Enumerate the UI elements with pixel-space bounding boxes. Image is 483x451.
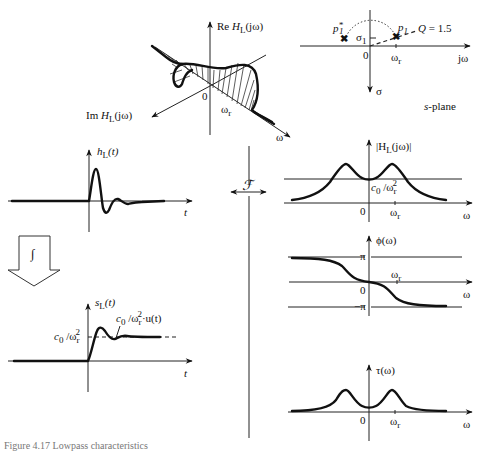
pi-label: π — [360, 250, 366, 262]
q-label: Q = 1.5 — [418, 22, 452, 34]
delay-origin: 0 — [360, 414, 366, 426]
s-plane-origin: 0 — [363, 49, 369, 61]
nyquist-loop — [173, 64, 192, 87]
h-axis-label: hL(t) — [97, 145, 119, 160]
pole-conj-label: p*1 — [332, 20, 344, 36]
integral-block-arrow — [8, 236, 60, 286]
delay-axis-label: τ(ω) — [376, 364, 395, 377]
step-t-label: t — [184, 367, 188, 379]
fourier-symbol: ℱ — [242, 178, 256, 193]
lowpass-characteristics-figure: Re HL(jω) Im HL(jω) 0 ωr ω ✖ ✖ p*1 p1 σ1… — [0, 0, 483, 451]
t-axis-label: t — [184, 206, 188, 218]
jw-axis-label: jω — [457, 52, 468, 64]
neg-pi-label: −π — [354, 300, 366, 312]
asymptote-label: c0 /ωr2·u(t) — [116, 309, 162, 327]
nyquist-3d-plot: Re HL(jω) Im HL(jω) 0 ωr ω — [86, 20, 290, 143]
phase-axis-label: ϕ(ω) — [376, 234, 397, 247]
s-plane-plot: ✖ ✖ p*1 p1 σ1 Q = 1.5 0 ωr jω σ s-plane — [300, 10, 470, 112]
s-axis-label: sL(t) — [95, 296, 116, 311]
magnitude-plot: |HL(jω)| c0 /ωr2 0 ωr ω — [284, 140, 472, 222]
sigma-axis-label: σ — [376, 85, 382, 97]
mag-omega-label: ω — [463, 209, 470, 221]
s-plane-omega-r: ωr — [391, 51, 401, 66]
integral-symbol: ∫ — [30, 246, 36, 262]
nyquist-tail — [254, 112, 274, 124]
phase-omega-r: ωr — [391, 268, 401, 283]
mag-origin: 0 — [360, 205, 366, 217]
integral-arrow: ∫ — [8, 236, 60, 286]
fourier-separator: ℱ — [231, 146, 266, 438]
group-delay-plot: τ(ω) 0 ωr ω — [288, 364, 472, 441]
step-curve — [14, 328, 160, 361]
omega-axis-label: ω — [276, 131, 283, 143]
mag-level-label: c0 /ωr2 — [371, 178, 397, 196]
mag-omega-r: ωr — [390, 206, 400, 221]
s-plane-title: s-plane — [424, 100, 456, 112]
re-axis-label: Re HL(jω) — [217, 20, 263, 35]
delay-omega-r: ωr — [390, 415, 400, 430]
figure-caption: Figure 4.17 Lowpass characteristics — [4, 440, 148, 451]
delay-omega-label: ω — [463, 418, 470, 430]
step-response-plot: sL(t) t c0 /ωr2 c0 /ωr2·u(t) — [8, 296, 192, 392]
impulse-response-plot: hL(t) t — [8, 145, 192, 232]
mag-axis-label: |HL(jω)| — [376, 140, 411, 155]
sigma1-label: σ1 — [356, 31, 366, 46]
phase-plot: ϕ(ω) π −π 0 ωr ω — [288, 234, 472, 316]
phase-origin: 0 — [360, 284, 366, 296]
steady-level-label: c0 /ωr2 — [54, 327, 80, 345]
unit-circle-arc — [345, 20, 397, 40]
phase-omega-label: ω — [463, 288, 470, 300]
impulse-curve — [12, 169, 164, 213]
origin-label: 0 — [202, 90, 208, 102]
im-axis-label: Im HL(jω) — [86, 109, 132, 124]
omega-r-label: ωr — [221, 103, 231, 118]
